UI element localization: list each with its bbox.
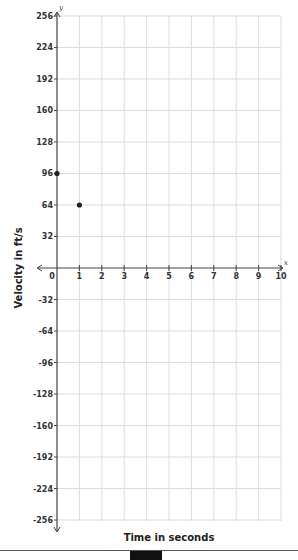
x-tick-label: 0 — [49, 272, 55, 281]
x-tick-label: 1 — [77, 272, 83, 281]
y-axis-title: Velocity in ft/s — [13, 227, 24, 308]
velocity-time-chart: 256224192160128966432-32-64-96-128-160-1… — [0, 0, 298, 560]
y-tick-label: 64 — [42, 201, 54, 210]
y-tick-label: -64 — [39, 327, 54, 336]
y-tick-label: -32 — [39, 296, 53, 305]
y-tick-label: 96 — [42, 169, 54, 178]
y-axis-variable: y — [58, 4, 64, 12]
bottom-dark-block — [130, 551, 162, 560]
x-tick-label: 10 — [275, 272, 287, 281]
x-axis-title: Time in seconds — [124, 532, 215, 543]
x-tick-label: 8 — [233, 272, 239, 281]
data-point — [77, 202, 82, 207]
y-tick-label: 128 — [36, 138, 53, 147]
y-tick-label: -192 — [33, 453, 53, 462]
y-tick-label: 224 — [36, 43, 53, 52]
x-tick-label: 5 — [166, 272, 172, 281]
y-tick-label: 256 — [36, 12, 53, 21]
y-tick-label: -96 — [39, 359, 54, 368]
data-point — [54, 171, 59, 176]
axes — [37, 12, 283, 532]
x-tick-label: 6 — [189, 272, 195, 281]
x-tick-label: 7 — [211, 272, 217, 281]
x-axis-variable: x — [284, 259, 288, 267]
y-tick-label: -160 — [33, 422, 53, 431]
y-tick-label: -224 — [33, 485, 53, 494]
y-tick-label: 32 — [42, 232, 53, 241]
y-tick-label: -256 — [33, 516, 53, 525]
x-tick-label: 2 — [99, 272, 105, 281]
data-points — [54, 171, 82, 208]
x-tick-label: 3 — [121, 272, 127, 281]
x-tick-label: 9 — [256, 272, 262, 281]
y-tick-label: 192 — [36, 75, 53, 84]
y-tick-label: -128 — [33, 390, 53, 399]
x-tick-label: 4 — [144, 272, 150, 281]
y-tick-label: 160 — [36, 106, 53, 115]
